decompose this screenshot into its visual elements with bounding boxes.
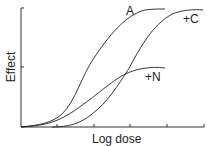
label-a: A xyxy=(126,4,134,18)
label-c: +C xyxy=(183,12,199,26)
dose-response-chart: A +C +N Log dose Effect xyxy=(0,0,207,146)
label-n: +N xyxy=(145,70,161,84)
curve-c xyxy=(52,10,203,127)
y-axis-label: Effect xyxy=(4,51,18,82)
x-axis-label: Log dose xyxy=(92,132,142,146)
curve-n xyxy=(21,67,165,127)
